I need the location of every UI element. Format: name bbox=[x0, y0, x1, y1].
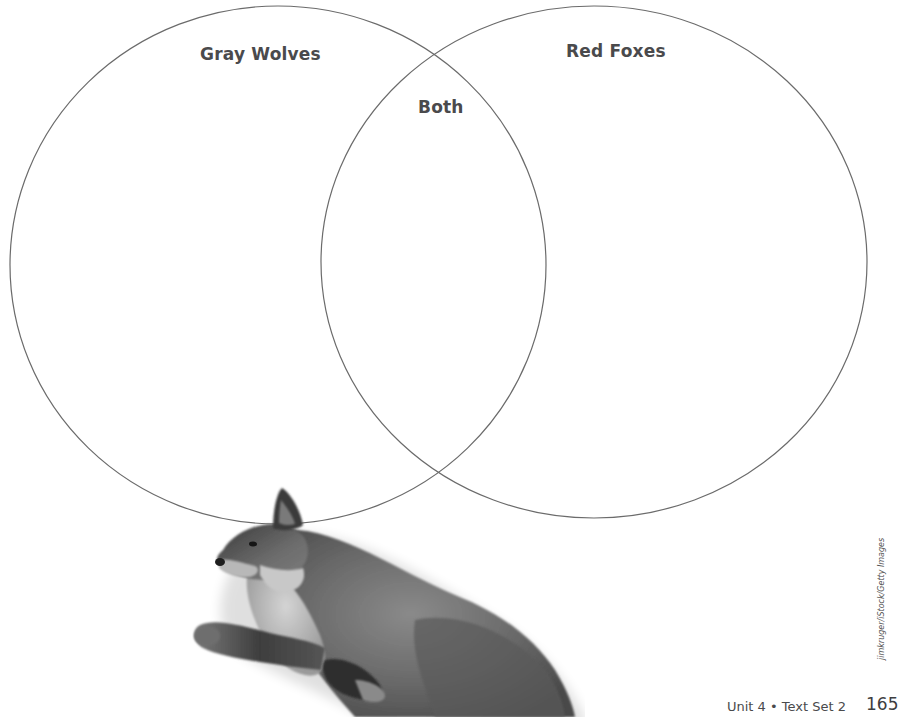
unit-text-set-label: Unit 4 • Text Set 2 bbox=[727, 699, 846, 714]
photo-credit: jimkruger/iStock/Getty Images bbox=[877, 538, 886, 660]
red-foxes-label: Red Foxes bbox=[566, 41, 666, 61]
both-writing-area[interactable] bbox=[340, 130, 530, 430]
both-label: Both bbox=[418, 97, 464, 117]
gray-wolves-writing-area[interactable] bbox=[40, 80, 310, 460]
page-number: 165 bbox=[866, 694, 898, 714]
red-foxes-writing-area[interactable] bbox=[560, 80, 840, 460]
fox-nose bbox=[215, 558, 225, 566]
red-fox-photo bbox=[185, 470, 585, 717]
gray-wolves-label: Gray Wolves bbox=[200, 44, 321, 64]
fox-eye bbox=[249, 542, 257, 547]
